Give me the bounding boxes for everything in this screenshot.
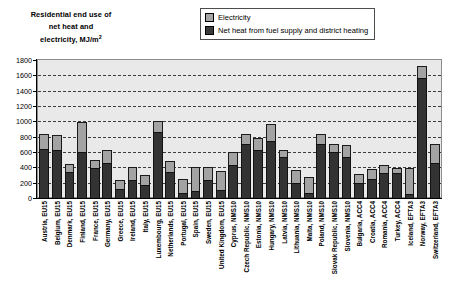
bar-segment-electricity	[128, 167, 138, 180]
bar-group	[265, 60, 278, 198]
y-axis-tick-label: 1000	[16, 117, 32, 126]
bar-group	[277, 60, 290, 198]
x-axis-label-slot: Poland, NMS10	[315, 200, 328, 295]
stacked-bar	[405, 60, 415, 198]
x-axis-tick-label: Turkey, ACC4	[393, 201, 400, 241]
stacked-bar	[90, 60, 100, 198]
x-axis-tick-label: Estonia, NMS10	[255, 201, 262, 248]
x-axis-tick-label: Malta, NMS10	[305, 201, 312, 242]
stacked-bar	[266, 60, 276, 198]
bar-group	[391, 60, 404, 198]
x-axis-tick-label: Hungary, NMS10	[267, 201, 274, 251]
stacked-bar	[228, 60, 238, 198]
bar-segment-net-heat	[140, 185, 150, 198]
bar-segment-electricity	[178, 179, 188, 194]
x-axis-label-slot: France, EU15	[88, 200, 101, 295]
bar-segment-net-heat	[115, 189, 125, 198]
bar-segment-electricity	[241, 134, 251, 144]
stacked-bar	[65, 60, 75, 198]
stacked-bar	[329, 60, 339, 198]
bar-segment-net-heat	[430, 163, 440, 198]
bar-segment-electricity	[165, 161, 175, 172]
y-axis-tick-label: 1200	[16, 102, 32, 111]
chart-title-line-3: electricity, MJ/m2	[6, 32, 136, 46]
stacked-bar	[417, 60, 427, 198]
x-axis-tick-label: Netherlands, EU15	[167, 201, 174, 257]
x-axis-label-slot: Belgium, EU15	[51, 200, 64, 295]
x-axis-label-slot: Italy, EU15	[139, 200, 152, 295]
x-axis-label-slot: United Kingdom, EU15	[214, 200, 227, 295]
bar-group	[126, 60, 139, 198]
bar-segment-electricity	[102, 150, 112, 163]
stacked-bar	[203, 60, 213, 198]
legend-swatch-electricity-icon	[205, 13, 214, 22]
stacked-bar	[342, 60, 352, 198]
x-axis-tick-label: Poland, NMS10	[318, 201, 325, 247]
y-axis-tick-label: 400	[20, 163, 32, 172]
bar-group	[315, 60, 328, 198]
bar-segment-electricity	[39, 134, 49, 149]
x-axis-label-slot: Slovenia, NMS10	[340, 200, 353, 295]
x-axis-label-slot: Switzerland, EFTA3	[428, 200, 441, 295]
bar-group	[227, 60, 240, 198]
bar-segment-net-heat	[77, 152, 87, 198]
x-axis-tick-label: France, EU15	[91, 201, 98, 241]
bar-segment-net-heat	[379, 173, 389, 198]
bar-segment-electricity	[342, 145, 352, 157]
x-axis-label-slot: Portugal, EU15	[177, 200, 190, 295]
bar-segment-electricity	[216, 171, 226, 189]
bar-segment-electricity	[304, 177, 314, 193]
bar-segment-net-heat	[291, 183, 301, 198]
x-axis-label-slot: Turkey, ACC4	[391, 200, 404, 295]
chart-title-line-1: Residential end use of	[6, 9, 136, 21]
bar-group	[63, 60, 76, 198]
bar-segment-net-heat	[266, 141, 276, 198]
bar-segment-electricity	[417, 66, 427, 78]
bar-segment-net-heat	[102, 163, 112, 198]
x-axis-label-slot: Croatia, ACC4	[365, 200, 378, 295]
bar-segment-net-heat	[228, 165, 238, 198]
bar-segment-electricity	[316, 134, 326, 144]
bar-group	[214, 60, 227, 198]
bar-segment-electricity	[153, 121, 163, 132]
y-axis-tick-label: 1600	[16, 71, 32, 80]
bar-segment-electricity	[405, 168, 415, 194]
x-axis-label-slot: Lithuania, NMS10	[290, 200, 303, 295]
legend-label-net-heat: Net heat from fuel supply and district h…	[218, 26, 368, 35]
x-axis-tick-label: Denmark, EU15	[66, 201, 73, 247]
bar-segment-electricity	[253, 138, 263, 150]
bar-group	[202, 60, 215, 198]
legend-item-electricity: Electricity	[205, 12, 368, 23]
bar-segment-electricity	[191, 167, 201, 192]
x-axis-tick-label: Italy, EU15	[142, 201, 149, 232]
bar-segment-electricity	[65, 164, 75, 172]
stacked-bar	[165, 60, 175, 198]
stacked-bar	[430, 60, 440, 198]
stacked-bar	[316, 60, 326, 198]
bar-segment-electricity	[115, 180, 125, 189]
stacked-bar	[52, 60, 62, 198]
bar-segment-net-heat	[153, 132, 163, 198]
bar-group	[177, 60, 190, 198]
x-axis-label-slot: Malta, NMS10	[302, 200, 315, 295]
x-axis-tick-label: Portugal, EU15	[179, 201, 186, 246]
y-axis-tick-label: 1400	[16, 86, 32, 95]
x-axis-tick-label: Czech Republic, NMS10	[242, 201, 249, 272]
y-axis: 180016001400120010008006004002000	[0, 59, 37, 199]
bar-segment-net-heat	[191, 191, 201, 198]
bar-group	[139, 60, 152, 198]
bar-group	[403, 60, 416, 198]
bar-group	[290, 60, 303, 198]
chart-title-line-3-text: electricity, MJ/m	[40, 35, 99, 44]
bar-segment-net-heat	[39, 149, 49, 198]
bar-segment-net-heat	[52, 150, 62, 198]
bar-segment-net-heat	[392, 173, 402, 198]
x-axis-tick-label: Norway, EFTA3	[419, 201, 426, 246]
x-axis-tick-label: Switzerland, EFTA3	[431, 201, 438, 259]
chart-container: Residential end use of net heat and elec…	[0, 0, 449, 299]
x-axis-tick-label: Iceland, EFTA3	[406, 201, 413, 246]
bar-segment-net-heat	[279, 157, 289, 198]
bar-group	[353, 60, 366, 198]
bar-segment-electricity	[90, 160, 100, 168]
bar-segment-net-heat	[316, 144, 326, 198]
